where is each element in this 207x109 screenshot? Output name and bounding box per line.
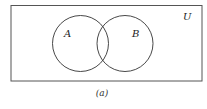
set-b-circle [97,16,153,72]
universe-rectangle [11,6,202,82]
universe-label: U [183,11,192,22]
set-a-label: A [63,28,71,39]
set-a-circle [53,16,109,72]
set-b-label: B [131,28,139,39]
venn-diagram: A B U (a) [0,0,207,109]
caption: (a) [96,88,109,98]
